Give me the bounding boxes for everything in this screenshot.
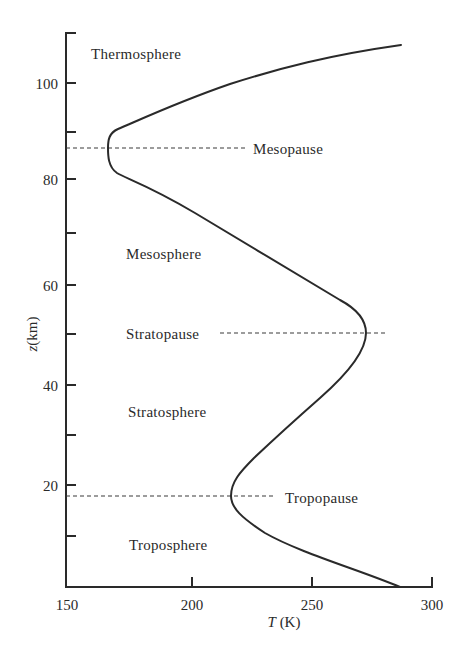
label-tropopause: Tropopause — [285, 490, 358, 506]
x-tick-label-200: 200 — [181, 597, 204, 613]
label-troposphere: Troposphere — [129, 537, 208, 553]
label-thermosphere: Thermosphere — [91, 46, 181, 62]
x-axis-title-unit: (K) — [276, 614, 301, 631]
x-tick-labels: 150 200 250 300 — [56, 597, 444, 613]
temperature-altitude-chart: 100 80 60 40 20 150 200 250 300 T (K) z(… — [0, 0, 469, 656]
x-axis-title: T (K) — [268, 614, 301, 631]
y-axis-title: z(km) — [24, 316, 41, 352]
label-mesosphere: Mesosphere — [126, 246, 202, 262]
label-mesopause: Mesopause — [253, 141, 323, 157]
axes — [65, 32, 433, 587]
y-tick-label-60: 60 — [43, 278, 58, 294]
label-stratosphere: Stratosphere — [128, 404, 207, 420]
x-tick-label-250: 250 — [301, 597, 324, 613]
y-ticks — [66, 83, 76, 536]
region-labels: Thermosphere Mesopause Mesosphere Strato… — [91, 46, 358, 553]
reference-lines — [66, 148, 386, 496]
y-tick-label-40: 40 — [43, 378, 58, 394]
y-tick-label-20: 20 — [43, 478, 58, 494]
y-tick-label-80: 80 — [43, 172, 58, 188]
label-stratopause: Stratopause — [126, 326, 199, 342]
x-tick-label-150: 150 — [56, 597, 79, 613]
y-tick-labels: 100 80 60 40 20 — [36, 76, 59, 494]
x-tick-label-300: 300 — [421, 597, 444, 613]
y-axis-title-unit: (km) — [24, 316, 41, 345]
y-tick-label-100: 100 — [36, 76, 59, 92]
